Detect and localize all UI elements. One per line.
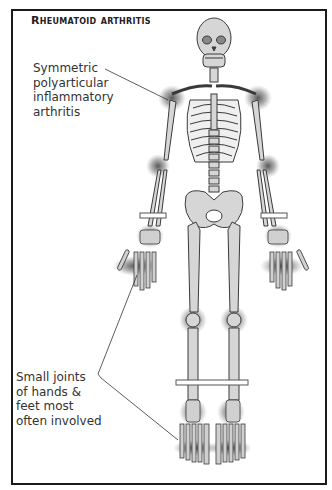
skeleton-illustration <box>0 0 332 490</box>
skull <box>197 18 231 67</box>
